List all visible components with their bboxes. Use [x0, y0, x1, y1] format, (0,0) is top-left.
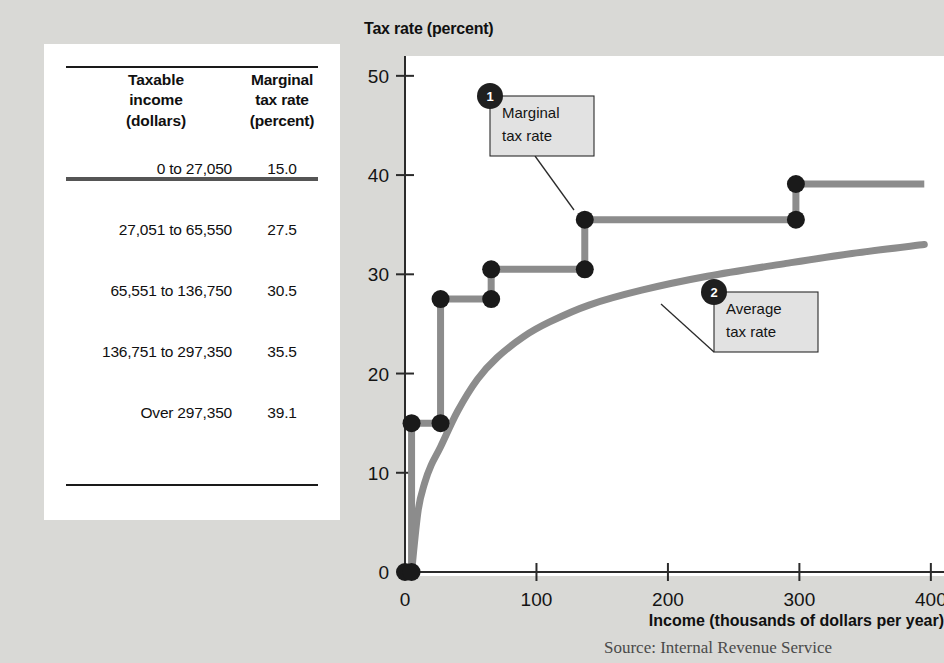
column-header-taxable-income: Taxable income (dollars): [66, 70, 246, 138]
y-tick-label: 30: [368, 264, 389, 285]
x-tick-label: 100: [521, 589, 553, 610]
cell-rate: 39.1: [246, 382, 318, 443]
cell-income: Over 297,350: [66, 382, 246, 443]
plot-svg: 01020304050 0100200300400 Marginal tax r…: [356, 8, 944, 663]
cell-rate: 15.0: [246, 138, 318, 199]
table-header-row: Taxable income (dollars) Marginal tax ra…: [66, 70, 318, 138]
x-tick-label: 400: [915, 589, 944, 610]
data-point-marker: [576, 211, 594, 229]
tax-rate-chart: Tax rate (percent) 01020304050 010020030…: [356, 8, 944, 663]
data-point-marker: [432, 290, 450, 308]
data-point-marker: [576, 260, 594, 278]
y-tick-label: 20: [368, 364, 389, 385]
cell-income: 27,051 to 65,550: [66, 199, 246, 260]
column-header-marginal-rate: Marginal tax rate (percent): [246, 70, 318, 138]
table-body: 0 to 27,050 15.0 27,051 to 65,550 27.5 6…: [66, 138, 318, 443]
header-line-1: Taxable: [66, 70, 246, 90]
cell-income: 65,551 to 136,750: [66, 260, 246, 321]
tax-bracket-table: Taxable income (dollars) Marginal tax ra…: [66, 70, 318, 443]
marginal-data-point-markers: [396, 175, 805, 581]
table-row: 0 to 27,050 15.0: [66, 138, 318, 199]
y-tick-label: 40: [368, 165, 389, 186]
callout-label-line-1: Average: [726, 300, 782, 317]
source-note: Source: Internal Revenue Service: [604, 638, 832, 658]
callout-badge-number: 1: [486, 89, 493, 104]
data-point-marker: [787, 175, 805, 193]
figure-page: Taxable income (dollars) Marginal tax ra…: [0, 0, 944, 663]
x-axis-title: Income (thousands of dollars per year): [649, 612, 944, 629]
table-row: 65,551 to 136,750 30.5: [66, 260, 318, 321]
callout-label-line-1: Marginal: [502, 104, 560, 121]
callout-average-tax-rate: Average tax rate 2: [661, 279, 818, 352]
header-line-2: tax rate: [246, 90, 318, 110]
header-line-2: income: [66, 90, 246, 110]
cell-rate: 30.5: [246, 260, 318, 321]
cell-rate: 35.5: [246, 321, 318, 382]
x-tick-label: 300: [784, 589, 816, 610]
callout-leader-line: [661, 304, 714, 352]
data-point-marker: [482, 290, 500, 308]
callout-leader-line: [535, 156, 574, 210]
data-point-marker: [482, 260, 500, 278]
callout-label-line-2: tax rate: [502, 127, 552, 144]
header-line-3: (percent): [246, 111, 318, 131]
table-row: 27,051 to 65,550 27.5: [66, 199, 318, 260]
x-tick-label: 200: [652, 589, 684, 610]
y-tick-label: 10: [368, 463, 389, 484]
data-point-marker: [403, 563, 421, 581]
table-rule-bottom: [66, 484, 318, 486]
callout-badge-number: 2: [710, 285, 717, 300]
x-axis-ticks: 0100200300400: [400, 563, 944, 610]
series-marginal-tax-rate: [412, 184, 925, 572]
cell-rate: 27.5: [246, 199, 318, 260]
table-row: Over 297,350 39.1: [66, 382, 318, 443]
y-tick-label: 0: [378, 562, 389, 583]
table-row: 136,751 to 297,350 35.5: [66, 321, 318, 382]
data-point-marker: [432, 414, 450, 432]
table-header: Taxable income (dollars) Marginal tax ra…: [66, 70, 318, 138]
header-line-1: Marginal: [246, 70, 318, 90]
callout-label-line-2: tax rate: [726, 323, 776, 340]
table-rule-top: [66, 66, 318, 68]
callout-marginal-tax-rate: Marginal tax rate 1: [477, 83, 594, 210]
cell-income: 136,751 to 297,350: [66, 321, 246, 382]
y-tick-label: 50: [368, 66, 389, 87]
data-point-marker: [787, 211, 805, 229]
data-point-marker: [403, 414, 421, 432]
tax-bracket-table-panel: Taxable income (dollars) Marginal tax ra…: [44, 44, 340, 520]
header-line-3: (dollars): [66, 111, 246, 131]
y-axis-ticks: 01020304050: [368, 66, 414, 583]
x-tick-label: 0: [400, 589, 411, 610]
cell-income: 0 to 27,050: [66, 138, 246, 199]
